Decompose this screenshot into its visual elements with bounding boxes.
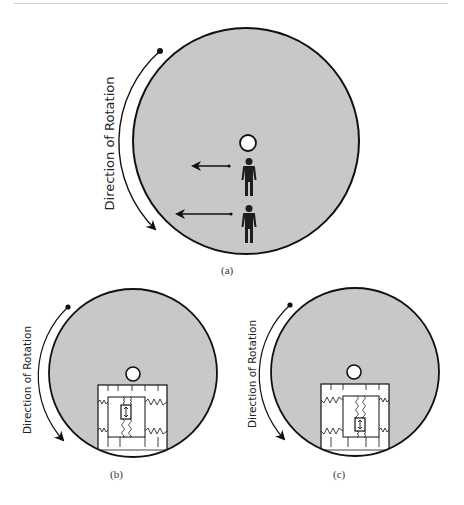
- rotation-label-b: Direction of Rotation: [21, 320, 33, 440]
- panel-b: [38, 289, 217, 465]
- rotation-start-dot: [65, 304, 70, 309]
- rotation-label-a: Direction of Rotation: [102, 74, 117, 214]
- figure-canvas: [0, 0, 464, 505]
- panel-a: [119, 28, 359, 254]
- rotation-label-c: Direction of Rotation: [246, 314, 258, 434]
- hub-circle: [126, 367, 140, 381]
- panel-c: [259, 288, 439, 464]
- caption-b: (b): [110, 468, 123, 480]
- rotation-start-dot: [157, 48, 163, 54]
- arrow-origin-dot: [227, 164, 230, 167]
- caption-a: (a): [221, 264, 233, 276]
- hub-circle: [347, 365, 361, 379]
- rotation-start-dot: [287, 302, 292, 307]
- caption-c: (c): [333, 468, 345, 480]
- hub-circle: [240, 135, 256, 151]
- arrow-origin-dot: [229, 212, 232, 215]
